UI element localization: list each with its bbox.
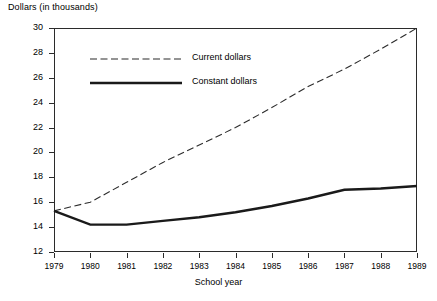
legend-label-current: Current dollars (192, 52, 251, 62)
legend-label-constant: Constant dollars (192, 76, 257, 86)
x-axis-title: School year (0, 277, 437, 287)
legend-swatch-solid (90, 81, 182, 85)
legend-item-constant: Constant dollars (90, 76, 310, 90)
legend-item-current: Current dollars (90, 52, 310, 66)
legend-swatch-dashed (90, 57, 182, 61)
chart-container: Dollars (in thousands) 12141618202224262… (0, 0, 437, 301)
series-lines (0, 0, 437, 301)
